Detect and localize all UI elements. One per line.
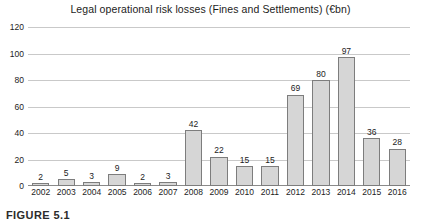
bar-value-label: 9 (104, 164, 129, 173)
bar[interactable] (83, 182, 100, 186)
bar-slot: 42 (181, 27, 206, 186)
bar-value-label: 36 (359, 128, 384, 137)
bar-slot: 15 (257, 27, 282, 186)
bar-value-label: 97 (334, 47, 359, 56)
bar-slot: 2 (130, 27, 155, 186)
bar[interactable] (159, 182, 176, 186)
bar-value-label: 80 (308, 70, 333, 79)
y-axis: 120 100 80 60 40 20 0 (0, 27, 24, 186)
x-tick-label: 2013 (308, 188, 333, 197)
bar-value-label: 2 (130, 173, 155, 182)
x-tick-label: 2014 (334, 188, 359, 197)
bar-value-label: 15 (232, 156, 257, 165)
bar-slot: 36 (359, 27, 384, 186)
chart-title: Legal operational risk losses (Fines and… (0, 3, 421, 15)
bar-value-label: 2 (28, 173, 53, 182)
bar-value-label: 5 (53, 169, 78, 178)
bar[interactable] (389, 149, 406, 186)
bar-slot: 2 (28, 27, 53, 186)
bar[interactable] (32, 183, 49, 186)
bar-slot: 22 (206, 27, 231, 186)
bar-value-label: 3 (79, 172, 104, 181)
bar[interactable] (338, 57, 355, 186)
x-tick-label: 2006 (130, 188, 155, 197)
y-tick-label: 20 (0, 156, 24, 165)
bar-value-label: 15 (257, 156, 282, 165)
bar-value-label: 42 (181, 120, 206, 129)
x-tick-label: 2008 (181, 188, 206, 197)
bar-slot: 80 (308, 27, 333, 186)
x-tick-label: 2010 (232, 188, 257, 197)
x-tick-label: 2003 (53, 188, 78, 197)
y-tick-label: 0 (0, 182, 24, 191)
bar[interactable] (58, 179, 75, 186)
bar[interactable] (363, 138, 380, 186)
bar-slot: 15 (232, 27, 257, 186)
y-tick-label: 120 (0, 23, 24, 32)
bar[interactable] (261, 166, 278, 186)
figure-caption: FIGURE 5.1 (6, 209, 70, 219)
bar-slot: 3 (155, 27, 180, 186)
x-tick-label: 2005 (104, 188, 129, 197)
bar[interactable] (210, 157, 227, 186)
y-tick-label: 40 (0, 129, 24, 138)
bar[interactable] (108, 174, 125, 186)
bar[interactable] (287, 95, 304, 186)
x-tick-label: 2016 (385, 188, 410, 197)
bar[interactable] (185, 130, 202, 186)
x-tick-label: 2015 (359, 188, 384, 197)
bar-value-label: 22 (206, 146, 231, 155)
x-tick-label: 2012 (283, 188, 308, 197)
x-tick-label: 2002 (28, 188, 53, 197)
bar[interactable] (134, 183, 151, 186)
x-axis: 2002 2003 2004 2005 2006 2007 2008 2009 … (28, 188, 410, 197)
figure-container: Legal operational risk losses (Fines and… (0, 0, 421, 219)
y-tick-label: 100 (0, 50, 24, 59)
bar-slot: 69 (283, 27, 308, 186)
bar-value-label: 69 (283, 84, 308, 93)
bar-value-label: 3 (155, 172, 180, 181)
bar-slot: 3 (79, 27, 104, 186)
bar-series: 2 5 3 9 2 3 42 22 (28, 27, 410, 186)
bar-slot: 28 (385, 27, 410, 186)
bar-slot: 9 (104, 27, 129, 186)
bar-slot: 97 (334, 27, 359, 186)
x-tick-label: 2009 (206, 188, 231, 197)
y-tick-label: 80 (0, 76, 24, 85)
y-tick-label: 60 (0, 103, 24, 112)
x-tick-label: 2011 (257, 188, 282, 197)
bar-slot: 5 (53, 27, 78, 186)
x-tick-label: 2007 (155, 188, 180, 197)
x-tick-label: 2004 (79, 188, 104, 197)
bar-value-label: 28 (385, 138, 410, 147)
bar[interactable] (312, 80, 329, 186)
bar[interactable] (236, 166, 253, 186)
